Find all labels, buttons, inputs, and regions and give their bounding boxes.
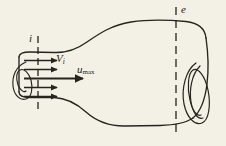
- exit-station-label: e: [181, 4, 186, 15]
- inlet-velocity-label: Vi: [56, 52, 65, 65]
- max-velocity-label: umax: [77, 64, 95, 76]
- inlet-station-label: i: [29, 33, 32, 44]
- inlet-velocity-subscript: i: [63, 57, 65, 66]
- station-lines-group: [38, 7, 176, 137]
- jet-flow-figure: i e Vi umax: [0, 0, 226, 146]
- jet-right-cap: [193, 38, 208, 118]
- left-vortex: [13, 62, 32, 99]
- left-vortex-outer-turn: [13, 62, 32, 99]
- inlet-velocity-symbol: V: [56, 52, 63, 64]
- figure-canvas: [0, 0, 226, 146]
- jet-boundary-group: [19, 20, 208, 126]
- velocity-profile-arrows: [24, 61, 83, 97]
- max-velocity-subscript: max: [83, 68, 95, 76]
- jet-upper-boundary: [19, 20, 206, 57]
